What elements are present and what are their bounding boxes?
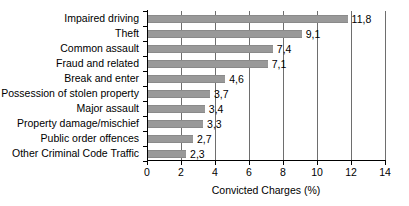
bar-value-label: 4,6 — [229, 74, 244, 84]
category-label: Major assault — [0, 101, 143, 116]
bar-row: 9,1 — [147, 26, 385, 41]
bar — [147, 75, 225, 83]
x-axis-tick — [181, 161, 182, 165]
gridline — [385, 11, 386, 161]
bar-row: 3,3 — [147, 116, 385, 131]
category-label: Common assault — [0, 41, 143, 56]
y-axis-tick — [143, 41, 147, 42]
x-axis-tick-label: 14 — [379, 166, 391, 178]
y-axis-tick — [143, 116, 147, 117]
x-axis-tick — [317, 161, 318, 165]
bar-value-label: 7,1 — [272, 59, 287, 69]
x-axis-tick-label: 0 — [144, 166, 150, 178]
x-axis-title: Convicted Charges (%) — [147, 184, 385, 196]
category-label: Property damage/mischief — [0, 116, 143, 131]
category-label: Fraud and related — [0, 56, 143, 71]
y-axis-tick — [143, 56, 147, 57]
x-axis-tick-label: 4 — [212, 166, 218, 178]
bar — [147, 105, 205, 113]
x-axis-tick — [283, 161, 284, 165]
bar-row: 2,7 — [147, 131, 385, 146]
y-axis-tick — [143, 71, 147, 72]
bar-series: 11,89,17,47,14,63,73,43,32,72,3 — [147, 11, 385, 161]
y-axis-tick — [143, 146, 147, 147]
bar-value-label: 3,3 — [207, 119, 222, 129]
bar-row: 2,3 — [147, 146, 385, 161]
bar-value-label: 3,7 — [214, 89, 229, 99]
category-label: Other Criminal Code Traffic — [0, 146, 143, 161]
bar-value-label: 9,1 — [306, 29, 321, 39]
bar-value-label: 7,4 — [277, 44, 292, 54]
category-label: Theft — [0, 26, 143, 41]
y-axis-tick — [143, 86, 147, 87]
bar-row: 7,4 — [147, 41, 385, 56]
bar — [147, 90, 210, 98]
bar-row: 3,4 — [147, 101, 385, 116]
bar — [147, 150, 186, 158]
category-label: Impaired driving — [0, 11, 143, 26]
category-label: Possession of stolen property — [0, 86, 143, 101]
x-axis-tick-label: 6 — [246, 166, 252, 178]
bar — [147, 45, 273, 53]
y-axis-tick — [143, 131, 147, 132]
bar — [147, 60, 268, 68]
bar — [147, 15, 348, 23]
bar-row: 11,8 — [147, 11, 385, 26]
bar-chart: Impaired drivingTheftCommon assaultFraud… — [0, 0, 409, 206]
x-axis-tick — [215, 161, 216, 165]
y-axis-line — [147, 10, 148, 161]
x-axis-tick — [147, 161, 148, 165]
category-label: Public order offences — [0, 131, 143, 146]
bar-row: 3,7 — [147, 86, 385, 101]
x-axis-tick-label: 10 — [311, 166, 323, 178]
x-axis-tick — [351, 161, 352, 165]
x-axis-tick-label: 2 — [178, 166, 184, 178]
bar-row: 7,1 — [147, 56, 385, 71]
bar-value-label: 11,8 — [352, 14, 372, 24]
category-label: Break and enter — [0, 71, 143, 86]
y-axis-tick — [143, 11, 147, 12]
plot-area: 11,89,17,47,14,63,73,43,32,72,3 — [147, 11, 385, 161]
y-axis-tick — [143, 26, 147, 27]
category-axis-labels: Impaired drivingTheftCommon assaultFraud… — [0, 11, 143, 161]
bar — [147, 120, 203, 128]
y-axis-tick — [143, 101, 147, 102]
bar — [147, 135, 193, 143]
bar-value-label: 2,7 — [197, 134, 212, 144]
bar-value-label: 3,4 — [209, 104, 224, 114]
bar-value-label: 2,3 — [190, 149, 205, 159]
bar — [147, 30, 302, 38]
bar-row: 4,6 — [147, 71, 385, 86]
x-axis-tick-label: 8 — [280, 166, 286, 178]
x-axis-tick-label: 12 — [345, 166, 357, 178]
x-axis-tick-labels: 02468101214 — [147, 166, 385, 180]
x-axis-tick — [249, 161, 250, 165]
x-axis-tick — [385, 161, 386, 165]
